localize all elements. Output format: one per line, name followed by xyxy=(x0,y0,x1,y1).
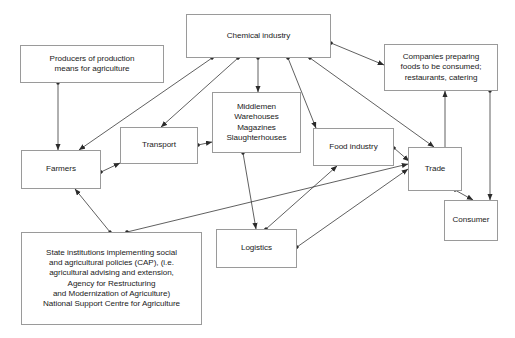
node-state-institutions[interactable]: State institutions implementing social a… xyxy=(21,232,202,325)
node-label: Companies preparing foods to be consumed… xyxy=(398,52,485,83)
node-label: Producers of production means for agricu… xyxy=(47,54,138,74)
node-producers-of-production-means[interactable]: Producers of production means for agricu… xyxy=(20,45,164,83)
node-label: Transport xyxy=(139,140,179,150)
node-middlemen-warehouses[interactable]: Middlemen Warehouses Magazines Slaughter… xyxy=(212,92,301,153)
edge-logistics-to-food xyxy=(266,166,337,229)
edge-farmers-to-transport xyxy=(101,163,120,172)
node-farmers[interactable]: Farmers xyxy=(21,150,101,189)
node-label: Logistics xyxy=(238,243,275,253)
diagram-canvas: Chemical industry Producers of productio… xyxy=(0,0,515,338)
node-label: Food industry xyxy=(326,142,380,152)
node-label: Farmers xyxy=(43,164,79,174)
node-label: Trade xyxy=(422,164,449,174)
node-food-industry[interactable]: Food industry xyxy=(313,128,394,166)
node-chemical-industry[interactable]: Chemical industry xyxy=(186,14,331,58)
edge-middlemen-to-logistics xyxy=(243,153,256,229)
edge-state-to-farmers xyxy=(75,189,110,232)
edge-chemical-to-companies xyxy=(331,43,384,65)
node-companies-preparing-foods[interactable]: Companies preparing foods to be consumed… xyxy=(384,44,498,91)
node-consumer[interactable]: Consumer xyxy=(444,200,498,241)
edge-trade-to-consumer xyxy=(455,190,473,200)
edge-food-to-trade xyxy=(394,148,409,161)
node-transport[interactable]: Transport xyxy=(120,127,198,164)
edge-transport-to-middlemen xyxy=(198,142,212,145)
edge-state-to-trade xyxy=(127,164,408,232)
node-logistics[interactable]: Logistics xyxy=(216,229,297,268)
edge-logistics-to-trade xyxy=(297,169,408,247)
node-label: Consumer xyxy=(450,215,493,225)
node-label: Chemical industry xyxy=(224,31,293,41)
node-trade[interactable]: Trade xyxy=(408,147,462,191)
node-label: Middlemen Warehouses Magazines Slaughter… xyxy=(224,102,290,143)
node-label: State institutions implementing social a… xyxy=(40,248,183,309)
